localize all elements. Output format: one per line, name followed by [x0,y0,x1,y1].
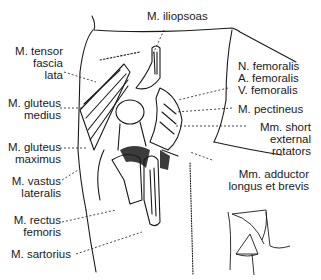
label-pectineus: M. pectineus [238,103,303,115]
label-adductor-longus-brevis: Mm. adductor longus et brevis [228,168,309,192]
label-vastus-lateralis: M. vastus lateralis [12,175,61,199]
hip-anatomy-diagram: M. iliopsoas M. tensor fascia lata M. gl… [0,0,321,280]
label-gluteus-medius: M. gluteus medius [8,97,61,121]
label-short-external-rotators: Mm. short external rotators [260,121,311,157]
label-rectus-femoris: M. rectus femoris [14,214,61,238]
label-femoral-bundle: N. femoralis A. femoralis V. femoralis [238,60,299,96]
label-iliopsoas: M. iliopsoas [147,10,208,22]
label-tensor-fascia-lata: M. tensor fascia lata [15,45,63,81]
label-sartorius: M. sartorius [11,248,71,260]
label-gluteus-maximus: M. gluteus maximus [8,141,61,165]
